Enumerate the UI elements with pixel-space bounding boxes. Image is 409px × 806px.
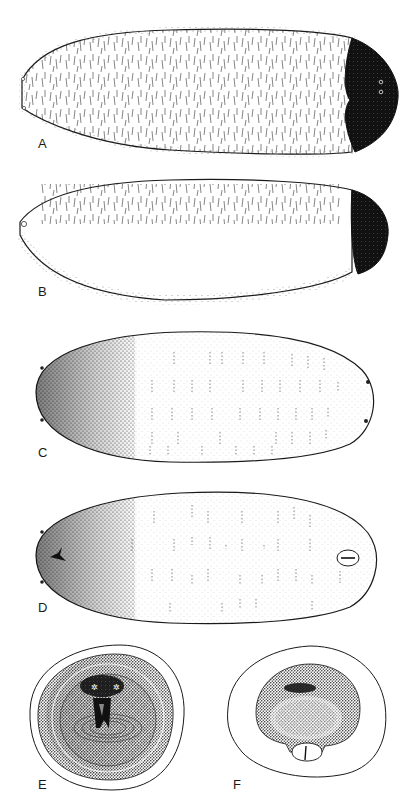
panel-label-f: F [233,777,241,792]
figure-panel-b: B [0,160,409,320]
larva-lateral-illustration-a [0,0,409,165]
mouth-opening-icon [21,221,26,226]
panel-label-a: A [38,136,47,151]
figure-panel-d: D [0,475,409,635]
larva-lateral-illustration-b [0,160,409,320]
panel-label-c: C [38,445,47,460]
figure-panel-a: A [0,0,409,165]
larva-dorsal-illustration-c [0,320,409,475]
panel-label-b: B [38,284,47,299]
figure-panel-c: C [0,320,409,475]
figure-panel-f: F [0,640,409,806]
panel-label-d: D [38,600,47,615]
posterior-opening-icon [292,743,322,761]
posterior-end-view-illustration-f [0,640,409,806]
larva-ventral-illustration-d [0,475,409,635]
